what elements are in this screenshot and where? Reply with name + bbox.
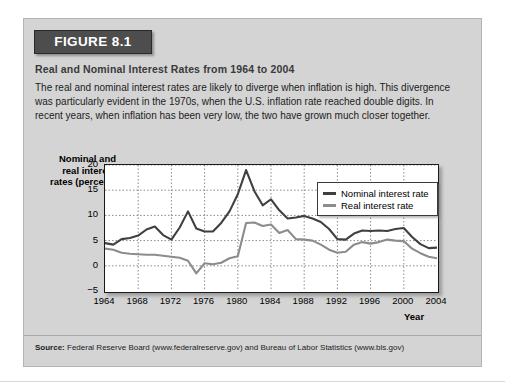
x-tick-label: 1984: [253, 295, 287, 306]
source-text: Federal Reserve Board (www.federalreserv…: [65, 343, 404, 352]
legend-label-real: Real interest rate: [341, 200, 413, 211]
legend-item-real: Real interest rate: [323, 199, 429, 211]
x-tick-label: 1992: [319, 295, 353, 306]
figure-title: Real and Nominal Interest Rates from 196…: [35, 63, 465, 75]
x-tick-label: 1972: [153, 295, 187, 306]
chart: Nominal and real interest rates (percent…: [24, 126, 483, 326]
x-tick-label: 2000: [386, 295, 420, 306]
page-rule: [0, 381, 505, 382]
x-tick-label: 1968: [120, 295, 154, 306]
x-tick-label: 1988: [286, 295, 320, 306]
chart-legend: Nominal interest rate Real interest rate: [317, 182, 438, 216]
y-tick-label: 20: [72, 158, 98, 169]
y-tick-label: −5: [72, 284, 98, 295]
x-tick-label: 1976: [187, 295, 221, 306]
y-tick-label: 15: [72, 183, 98, 194]
x-tick-label: 1980: [220, 295, 254, 306]
source-divider: [24, 335, 481, 336]
source-label: Source:: [35, 343, 65, 352]
x-axis-title: Year: [404, 311, 424, 322]
figure-number-label: FIGURE 8.1: [35, 31, 151, 53]
y-tick-label: 0: [72, 259, 98, 270]
legend-swatch-real-icon: [323, 204, 336, 207]
y-tick-label: 10: [72, 208, 98, 219]
y-tick-label: 5: [72, 234, 98, 245]
legend-swatch-nominal-icon: [323, 192, 336, 195]
figure-caption: The real and nominal interest rates are …: [35, 81, 459, 124]
x-tick-label: 1996: [353, 295, 387, 306]
legend-item-nominal: Nominal interest rate: [323, 187, 429, 199]
x-tick-label: 2004: [419, 295, 453, 306]
legend-label-nominal: Nominal interest rate: [341, 188, 429, 199]
source-line: Source: Federal Reserve Board (www.feder…: [35, 343, 404, 352]
x-tick-label: 1964: [87, 295, 121, 306]
plot-area: Nominal interest rate Real interest rate: [104, 164, 439, 293]
figure-number-banner: FIGURE 8.1: [34, 30, 152, 54]
figure-container: FIGURE 8.1 Real and Nominal Interest Rat…: [23, 18, 482, 367]
